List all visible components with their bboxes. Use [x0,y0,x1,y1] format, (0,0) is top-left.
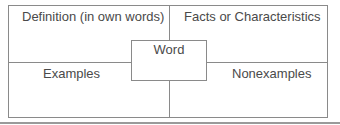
quadrant-nonexamples-label: Nonexamples [232,66,312,82]
center-word-box: Word [131,40,207,81]
quadrant-facts-label: Facts or Characteristics [184,9,321,25]
quadrant-definition-label: Definition (in own words) [22,9,164,25]
quadrant-examples-label: Examples [43,66,100,82]
center-word-label: Word [132,42,206,58]
bottom-separator-line [0,122,340,124]
